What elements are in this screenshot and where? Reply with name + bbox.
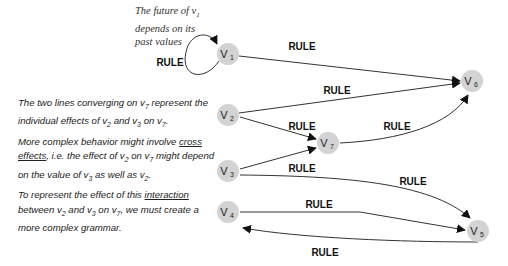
annotation-v1-loop: The future of v1 depends on its past val… xyxy=(135,4,225,48)
edge-v5-v4 xyxy=(243,228,478,242)
node-v3: V 3 xyxy=(217,160,239,182)
svg-text:V: V xyxy=(320,137,328,149)
edge-label-v7-v6: RULE xyxy=(383,121,411,132)
explanation-notes: The two lines converging on v7 represent… xyxy=(18,96,218,238)
svg-text:V: V xyxy=(220,48,228,60)
node-v2: V 2 xyxy=(217,104,239,126)
edge-label-v2-v6: RULE xyxy=(323,85,351,96)
edge-v7-v6 xyxy=(340,95,468,143)
edge-label-v2-v7: RULE xyxy=(288,121,316,132)
edge-label-v1-v1: RULE xyxy=(156,57,184,68)
edge-v1-v6 xyxy=(239,56,460,81)
svg-text:V: V xyxy=(470,225,478,237)
edge-label-v4-v5: RULE xyxy=(305,199,333,210)
svg-text:2: 2 xyxy=(230,115,234,122)
svg-text:6: 6 xyxy=(474,81,478,88)
note-paragraph-2: More complex behavior might involve cros… xyxy=(18,135,218,186)
svg-text:V: V xyxy=(220,165,228,177)
node-v5: V 5 xyxy=(467,220,489,242)
edge-label-v1-v6: RULE xyxy=(288,41,316,52)
note-paragraph-1: The two lines converging on v7 represent… xyxy=(18,96,218,133)
edge-v4-v5 xyxy=(240,212,465,230)
svg-text:5: 5 xyxy=(480,231,484,238)
svg-text:V: V xyxy=(464,75,472,87)
edge-label-v3-v5: RULE xyxy=(399,176,427,187)
note-paragraph-3: To represent the effect of this interact… xyxy=(18,188,218,235)
svg-text:V: V xyxy=(220,109,228,121)
svg-text:1: 1 xyxy=(230,54,234,61)
edge-label-v3-v7: RULE xyxy=(288,163,316,174)
svg-text:3: 3 xyxy=(230,171,234,178)
node-v6: V 6 xyxy=(461,70,483,92)
svg-text:4: 4 xyxy=(230,212,234,219)
svg-text:V: V xyxy=(220,206,228,218)
node-v4: V 4 xyxy=(217,201,239,223)
svg-text:7: 7 xyxy=(330,143,334,150)
edge-label-v5-v4: RULE xyxy=(311,247,339,258)
node-v7: V 7 xyxy=(317,132,339,154)
